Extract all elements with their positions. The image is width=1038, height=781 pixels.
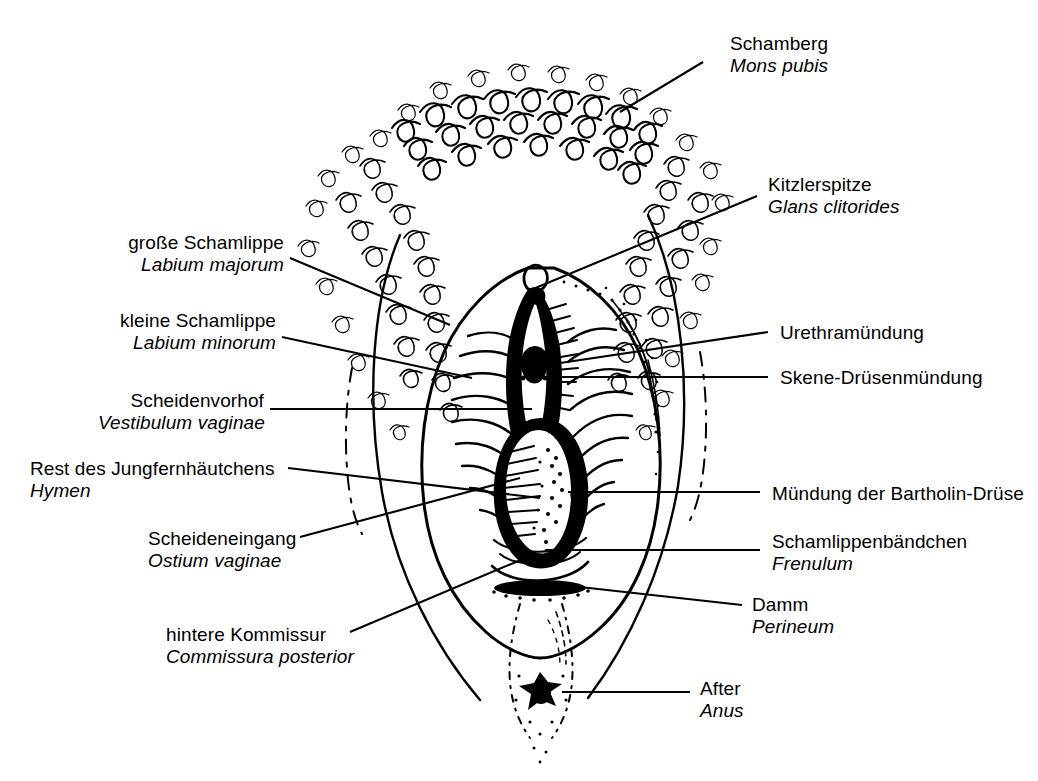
label-labium-majus-german: große Schamlippe: [128, 232, 284, 254]
label-mons-pubis-german: Schamberg: [730, 33, 828, 55]
label-perineum: Damm Perineum: [752, 594, 834, 638]
label-glans-clitoridis-german: Kitzlerspitze: [768, 174, 899, 196]
label-frenulum-german: Schamlippenbändchen: [772, 531, 967, 553]
leader-perineum: [553, 584, 742, 605]
label-anus-latin: Anus: [700, 700, 744, 722]
label-vestibulum-german: Scheidenvorhof: [98, 390, 264, 412]
label-commissura-posterior: hintere Kommissur Commissura posterior: [166, 624, 354, 668]
label-ostium-vaginae: Scheideneingang Ostium vaginae: [148, 528, 296, 572]
label-perineum-latin: Perineum: [752, 616, 834, 638]
label-bartholin-gland-german: Mündung der Bartholin-Drüse: [772, 483, 1024, 505]
label-frenulum: Schamlippenbändchen Frenulum: [772, 531, 967, 575]
leader-ostium: [300, 478, 520, 537]
label-perineum-german: Damm: [752, 594, 834, 616]
label-labium-minus-latin: Labium minorum: [118, 332, 276, 354]
label-urethral-opening: Urethramündung: [780, 322, 924, 344]
label-commissura-posterior-german: hintere Kommissur: [166, 624, 354, 646]
label-vestibulum: Scheidenvorhof Vestibulum vaginae: [98, 390, 264, 434]
perineum-region: [509, 604, 572, 738]
label-skene-glands: Skene-Drüsenmündung: [780, 367, 983, 389]
label-ostium-vaginae-latin: Ostium vaginae: [148, 550, 296, 572]
label-skene-glands-german: Skene-Drüsenmündung: [780, 367, 983, 389]
label-hymen-latin: Hymen: [30, 480, 274, 502]
label-hymen-german: Rest des Jungfernhäutchens: [30, 458, 274, 480]
leader-labium-minus: [282, 337, 472, 378]
label-labium-minus-german: kleine Schamlippe: [118, 310, 276, 332]
label-labium-majus-latin: Labium majorum: [128, 254, 284, 276]
label-labium-majus: große Schamlippe Labium majorum: [128, 232, 284, 276]
label-glans-clitoridis: Kitzlerspitze Glans clitorides: [768, 174, 899, 218]
label-anus-german: After: [700, 678, 744, 700]
label-mons-pubis: Schamberg Mons pubis: [730, 33, 828, 77]
label-vestibulum-latin: Vestibulum vaginae: [98, 412, 264, 434]
label-labium-minus: kleine Schamlippe Labium minorum: [118, 310, 276, 354]
label-anus: After Anus: [700, 678, 744, 722]
label-urethral-opening-german: Urethramündung: [780, 322, 924, 344]
label-bartholin-gland: Mündung der Bartholin-Drüse: [772, 483, 1024, 505]
label-frenulum-latin: Frenulum: [772, 553, 967, 575]
label-commissura-posterior-latin: Commissura posterior: [166, 646, 354, 668]
label-glans-clitoridis-latin: Glans clitorides: [768, 196, 899, 218]
leader-mons-pubis: [620, 62, 703, 112]
label-ostium-vaginae-german: Scheideneingang: [148, 528, 296, 550]
label-mons-pubis-latin: Mons pubis: [730, 55, 828, 77]
anus-shape: [514, 672, 567, 763]
commissura-posterior-shading: [492, 580, 590, 602]
label-hymen: Rest des Jungfernhäutchens Hymen: [30, 458, 274, 502]
figure-canvas: Schamberg Mons pubis Kitzlerspitze Glans…: [0, 0, 1038, 781]
